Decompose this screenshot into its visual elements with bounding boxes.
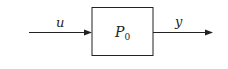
arrowhead-icon xyxy=(205,30,213,36)
block-diagram: u P0 y xyxy=(0,0,228,69)
arrowhead-icon xyxy=(84,30,92,36)
input-label: u xyxy=(56,15,64,30)
output-arrow xyxy=(153,30,213,36)
input-arrow xyxy=(29,30,92,36)
output-label: y xyxy=(174,14,183,29)
